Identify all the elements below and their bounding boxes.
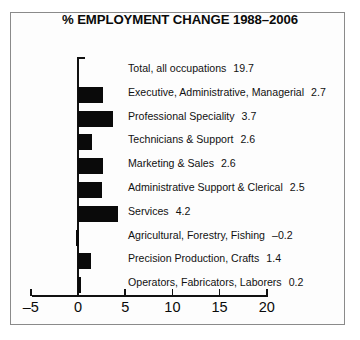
x-tick-label: 0 [58,299,98,315]
bar-row: Executive, Administrative, Managerial2.7 [0,84,360,108]
bar-category-name: Marketing & Sales [128,157,214,169]
bar-label: Professional Speciality3.7 [128,110,256,122]
bar [78,206,118,222]
bar-label: Operators, Fabricators, Laborers0.2 [128,276,303,288]
bar-row: Services4.2 [0,203,360,227]
bar-label: Executive, Administrative, Managerial2.7 [128,86,326,98]
bar [78,253,91,269]
bar-category-name: Services [128,205,169,217]
bar [78,158,103,174]
bar-label: Precision Production, Crafts1.4 [128,252,281,264]
bar-value-label: –0.2 [272,229,293,241]
bar-category-name: Agricultural, Forestry, Fishing [128,229,265,241]
bar-value-label: 2.6 [240,133,255,145]
bar-label: Agricultural, Forestry, Fishing–0.2 [128,229,293,241]
bar-label: Total, all occupations19.7 [128,62,254,74]
bar [78,182,102,198]
bar [78,134,92,150]
bar-category-name: Total, all occupations [128,62,226,74]
axis-top-tick [77,57,85,59]
x-tick-label: –5 [11,299,51,315]
bar-value-label: 0.2 [289,276,304,288]
bar-category-name: Technicians & Support [128,133,233,145]
bar-value-label: 2.6 [221,157,236,169]
bar-label: Services4.2 [128,205,190,217]
bar-row: Administrative Support & Clerical2.5 [0,179,360,203]
x-tick-label: 5 [105,299,145,315]
bar [78,277,81,293]
bar-value-label: 2.5 [290,181,305,193]
bar-row: Precision Production, Crafts1.4 [0,250,360,274]
bar-category-name: Precision Production, Crafts [128,252,259,264]
bar-label: Technicians & Support2.6 [128,133,255,145]
bar-row: Technicians & Support2.6 [0,131,360,155]
bar-category-name: Administrative Support & Clerical [128,181,283,193]
bar-row: Marketing & Sales2.6 [0,155,360,179]
bar [76,230,79,246]
x-tick-label: 10 [152,299,192,315]
x-tick-label: 20 [247,299,287,315]
bar-label: Marketing & Sales2.6 [128,157,236,169]
x-tick-label: 15 [200,299,240,315]
bar-row: Agricultural, Forestry, Fishing–0.2 [0,227,360,251]
bar-label: Administrative Support & Clerical2.5 [128,181,305,193]
bar [78,111,113,127]
bar-row: Operators, Fabricators, Laborers0.2 [0,274,360,298]
bar-value-label: 19.7 [233,62,254,74]
bar-value-label: 4.2 [176,205,191,217]
bar [78,87,103,103]
bar-category-name: Executive, Administrative, Managerial [128,86,304,98]
bar-row: Professional Speciality3.7 [0,108,360,132]
bar-value-label: 2.7 [311,86,326,98]
bar-value-label: 1.4 [266,252,281,264]
bar-value-label: 3.7 [242,110,257,122]
bar-row: Total, all occupations19.7 [0,60,360,84]
bar-category-name: Operators, Fabricators, Laborers [128,276,282,288]
bar-category-name: Professional Speciality [128,110,235,122]
plot-area: –505101520 Total, all occupations19.7Exe… [0,0,360,340]
